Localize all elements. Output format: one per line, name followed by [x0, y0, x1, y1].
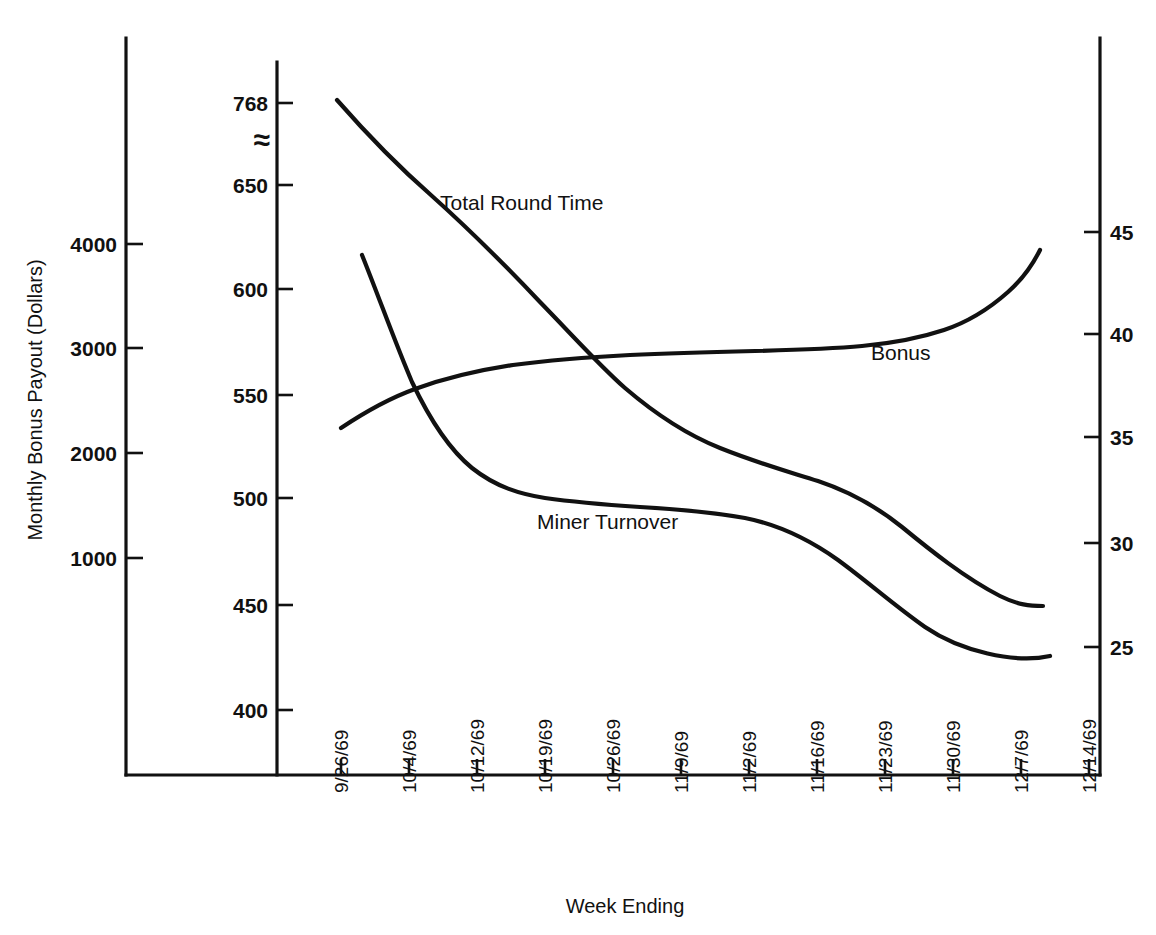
left-inner-axis: 768 650 600 550 500 450 400 ≈: [233, 62, 293, 775]
x-tick-label-7: 11/16/69: [807, 720, 828, 793]
x-tick-label-0: 9/26/69: [331, 730, 352, 793]
chart-canvas: 4000 3000 2000 1000 Monthly Bonus Payout…: [0, 0, 1156, 935]
left-inner-tick-label-450: 450: [233, 594, 268, 617]
x-tick-label-10: 12/7/69: [1011, 730, 1032, 793]
series-line-bonus: [341, 250, 1040, 428]
series-line-miner-turnover: [362, 255, 1050, 658]
series-label-bonus: Bonus: [871, 341, 931, 364]
right-tick-label-35: 35: [1110, 426, 1134, 449]
right-tick-label-45: 45: [1110, 221, 1134, 244]
left-inner-tick-label-600: 600: [233, 278, 268, 301]
left-outer-axis: 4000 3000 2000 1000: [70, 38, 143, 775]
left-inner-tick-label-500: 500: [233, 487, 268, 510]
x-tick-label-8: 11/23/69: [875, 720, 896, 793]
x-tick-label-6: 11/2/69: [739, 731, 760, 793]
x-tick-label-2: 10/12/69: [467, 719, 488, 793]
left-inner-tick-label-550: 550: [233, 384, 268, 407]
left-inner-tick-label-400: 400: [233, 699, 268, 722]
x-tick-label-11: 12/14/69: [1079, 719, 1100, 793]
right-tick-label-25: 25: [1110, 636, 1134, 659]
series-label-total-round-time: Total Round Time: [440, 191, 603, 214]
chart-figure: 4000 3000 2000 1000 Monthly Bonus Payout…: [0, 0, 1156, 935]
right-tick-label-30: 30: [1110, 532, 1133, 555]
x-tick-label-1: 10/4/69: [399, 730, 420, 793]
x-axis-title: Week Ending: [566, 895, 685, 917]
x-axis: 9/26/69 10/4/69 10/12/69 10/19/69 10/26/…: [126, 719, 1100, 793]
left-inner-tick-label-650: 650: [233, 174, 268, 197]
x-tick-label-4: 10/26/69: [603, 719, 624, 793]
axis-break-icon: ≈: [254, 123, 270, 156]
left-outer-tick-label-4000: 4000: [70, 233, 117, 256]
left-outer-tick-label-3000: 3000: [70, 337, 117, 360]
right-axis: 45 40 35 30 25: [1084, 38, 1134, 775]
x-tick-label-9: 11/30/69: [943, 720, 964, 793]
left-inner-tick-label-768: 768: [233, 92, 268, 115]
x-tick-label-5: 11/9/69: [671, 731, 692, 793]
left-outer-tick-label-1000: 1000: [70, 547, 117, 570]
y-axis-title: Monthly Bonus Payout (Dollars): [24, 259, 46, 540]
series-label-miner-turnover: Miner Turnover: [537, 510, 678, 533]
right-tick-label-40: 40: [1110, 323, 1133, 346]
left-outer-tick-label-2000: 2000: [70, 442, 117, 465]
x-tick-label-3: 10/19/69: [535, 719, 556, 793]
